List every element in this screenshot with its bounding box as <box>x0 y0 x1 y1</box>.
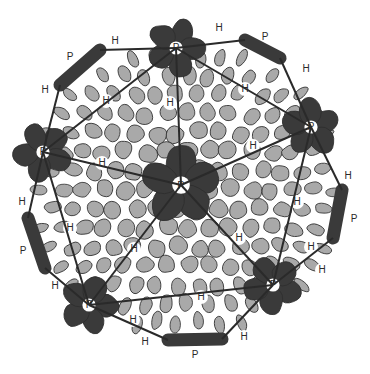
hexon-label: H <box>129 315 136 325</box>
capsid-diagram <box>0 0 370 374</box>
hexon-label: H <box>51 281 58 291</box>
penton-label: P <box>270 280 277 290</box>
hexon-label: H <box>102 96 109 106</box>
hexon-label: H <box>130 244 137 254</box>
hexon-label: H <box>241 84 248 94</box>
rim-penton-rim-bottom <box>168 339 222 340</box>
penton-label: P <box>40 147 47 157</box>
penton-label: P <box>351 214 358 224</box>
penton-label: P <box>20 246 27 256</box>
hexon-label: H <box>293 197 300 207</box>
penton-label: P <box>67 52 74 62</box>
penton-label: P <box>86 300 93 310</box>
hexon-label: H <box>318 265 325 275</box>
hexon-label: H <box>98 158 105 168</box>
hexon-label: H <box>307 242 314 252</box>
penton-label: P <box>177 180 184 190</box>
hexon-label: H <box>249 141 256 151</box>
hexon-label: H <box>240 332 247 342</box>
hexon-label: H <box>41 85 48 95</box>
hexon-label: H <box>302 64 309 74</box>
rim-penton-rim-right <box>333 190 342 238</box>
hexon-label: H <box>197 292 204 302</box>
penton-label: P <box>262 32 269 42</box>
hexon-label: H <box>66 223 73 233</box>
hexon-label: H <box>344 171 351 181</box>
penton-label: P <box>192 350 199 360</box>
hexon-label: H <box>18 197 25 207</box>
hexon-label: H <box>141 337 148 347</box>
hexon-label: H <box>166 98 173 108</box>
penton-label: P <box>308 122 315 132</box>
penton-label: P <box>173 43 180 53</box>
hexon-subunit <box>284 182 302 196</box>
hexon-label: H <box>111 36 118 46</box>
hexon-label: H <box>235 233 242 243</box>
hexon-label: H <box>215 23 222 33</box>
